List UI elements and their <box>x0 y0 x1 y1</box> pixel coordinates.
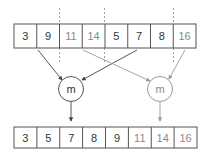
bottom-cell: 14 <box>157 132 169 144</box>
merge-label: m <box>66 83 75 95</box>
bottom-cell: 5 <box>45 132 51 144</box>
top-cell: 16 <box>178 30 190 42</box>
merge-label: m <box>155 83 164 95</box>
top-cell: 11 <box>65 30 76 42</box>
top-cell: 3 <box>22 30 28 42</box>
top-cell: 7 <box>136 30 142 42</box>
bottom-cell: 11 <box>134 132 145 144</box>
arrow-7-to-left-merge <box>82 50 137 80</box>
arrow-9-to-left-merge <box>38 50 62 80</box>
top-cell: 5 <box>113 30 119 42</box>
top-cell: 8 <box>159 30 165 42</box>
arrow-11-to-right-merge <box>83 50 150 81</box>
bottom-cell: 7 <box>68 132 74 144</box>
bottom-cell: 16 <box>179 132 191 144</box>
arrow-16-to-right-merge <box>169 50 185 79</box>
bottom-row: 3 5 7 8 9 11 14 16 <box>14 127 197 148</box>
merge-node-left: m <box>59 77 84 102</box>
bottom-cell: 3 <box>22 132 28 144</box>
merge-diagram: 3 9 11 14 5 7 8 16 m m 3 5 7 8 <box>0 0 211 162</box>
top-row: 3 9 11 14 5 7 8 16 <box>14 24 196 48</box>
bottom-cell: 9 <box>114 132 120 144</box>
bottom-cell: 8 <box>91 132 97 144</box>
merge-node-right: m <box>148 77 173 102</box>
top-cell: 14 <box>87 30 99 42</box>
top-cell: 9 <box>45 30 51 42</box>
